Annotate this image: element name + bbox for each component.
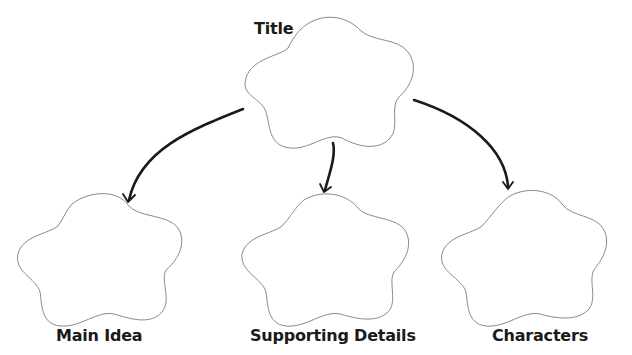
main-idea-label: Main Idea bbox=[56, 326, 142, 345]
title-label: Title bbox=[254, 19, 293, 38]
supporting-details-label: Supporting Details bbox=[250, 326, 416, 345]
characters-cloud[interactable] bbox=[442, 190, 607, 326]
main-idea-cloud[interactable] bbox=[18, 194, 182, 327]
arrow-to-characters bbox=[414, 100, 513, 189]
diagram-canvas bbox=[0, 0, 632, 355]
graphic-organizer: Title Main Idea Supporting Details Chara… bbox=[0, 0, 632, 355]
supporting-details-cloud[interactable] bbox=[242, 194, 409, 326]
arrow-to-supporting-details bbox=[320, 143, 334, 192]
characters-label: Characters bbox=[492, 326, 588, 345]
arrow-to-main-idea bbox=[123, 109, 243, 202]
